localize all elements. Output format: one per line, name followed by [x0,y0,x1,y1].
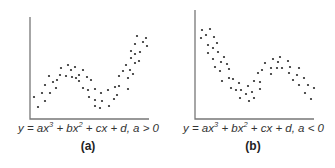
scatter-plots [0,0,335,168]
data-points-a [33,35,148,109]
data-point [132,73,134,75]
data-point [240,89,242,91]
data-point [87,89,89,91]
data-point [228,68,230,70]
data-point [288,72,290,74]
data-point [201,29,203,31]
equation-a-part: + bx [53,122,78,134]
equation-b-part: + bx [218,122,243,134]
equation-b-part: + cx + d, a < 0 [248,122,324,134]
data-point [146,45,148,47]
data-point [247,85,249,87]
data-point [219,70,221,72]
data-point [127,77,129,79]
data-point [307,84,309,86]
data-point [113,98,115,100]
data-point [253,80,255,82]
data-point [78,74,80,76]
data-point [56,79,58,81]
data-point [259,88,261,90]
data-point [122,70,124,72]
data-point [41,92,43,94]
data-point [44,100,46,102]
chart-b [195,10,315,119]
data-point [205,34,207,36]
data-point [82,69,84,71]
data-point [207,44,209,46]
data-point [129,69,131,71]
data-point [221,80,223,82]
data-point [259,81,261,83]
data-point [310,98,312,100]
data-point [223,56,225,58]
data-point [209,28,211,30]
data-point [94,99,96,101]
data-point [94,88,96,90]
equation-b-part: y = ax [183,122,214,134]
data-point [90,79,92,81]
data-points-b [200,28,315,102]
axes-b [195,10,314,119]
data-point [226,63,228,65]
data-point [125,64,127,66]
data-point [86,76,88,78]
data-point [55,87,57,89]
data-point [107,89,109,91]
data-point [139,51,141,53]
data-point [136,35,138,37]
data-point [142,41,144,43]
data-point [207,52,209,54]
data-point [65,75,67,77]
data-point [67,64,69,66]
data-point [99,107,101,109]
data-point [100,92,102,94]
data-point [228,77,230,79]
data-point [49,92,51,94]
data-point [235,89,237,91]
data-point [212,47,214,49]
data-point [138,60,140,62]
data-point [134,53,136,55]
data-point [270,73,272,75]
data-point [253,97,255,99]
data-point [281,67,283,69]
data-point [37,106,39,108]
data-point [60,67,62,69]
data-point [82,87,84,89]
data-point [94,105,96,107]
data-point [130,57,132,59]
data-point [257,72,259,74]
data-point [251,91,253,93]
data-point [245,93,247,95]
equation-b: y = ax3 + bx2 + cx + d, a < 0 [183,122,323,134]
data-point [212,58,214,60]
data-point [114,86,116,88]
data-point [71,76,73,78]
data-point [78,80,80,82]
data-point [277,61,279,63]
data-point [264,62,266,64]
data-point [289,66,291,68]
data-point [70,69,72,71]
data-point [298,67,300,69]
data-point [130,50,132,52]
data-point [116,94,118,96]
data-point [279,56,281,58]
equation-a: y = ax3 + bx2 + cx + d, a > 0 [18,122,158,134]
data-point [216,42,218,44]
data-point [270,67,272,69]
data-point [214,66,216,68]
data-point [48,75,50,77]
chart-a [30,17,149,119]
data-point [303,77,305,79]
data-point [52,81,54,83]
data-point [230,87,232,89]
data-point [217,51,219,53]
data-point [261,69,263,71]
data-point [101,100,103,102]
axes-a [30,17,149,119]
data-point [108,105,110,107]
data-point [74,66,76,68]
data-point [33,96,35,98]
data-point [213,36,215,38]
